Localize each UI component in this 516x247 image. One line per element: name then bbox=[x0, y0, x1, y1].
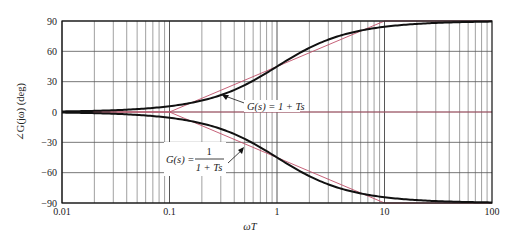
y-tick-label: −60 bbox=[41, 167, 57, 178]
y-tick-label: −30 bbox=[41, 137, 57, 148]
x-tick-labels: 0.010.1110100 bbox=[53, 206, 499, 217]
lag-label-prefix: G(s) = bbox=[166, 154, 194, 166]
x-axis-label: ωT bbox=[243, 221, 257, 232]
x-tick-label: 10 bbox=[380, 206, 390, 217]
y-axis-label: ∠G(jω) (deg) bbox=[15, 83, 27, 141]
phase-plot: 9060300−30−60−90 0.010.1110100 ∠G(jω) (d… bbox=[0, 0, 516, 247]
lag-label-denominator: 1 + Ts bbox=[196, 162, 223, 173]
y-tick-label: 90 bbox=[47, 16, 57, 27]
y-tick-labels: 9060300−30−60−90 bbox=[41, 16, 57, 209]
lag-label-numerator: 1 bbox=[206, 146, 211, 157]
x-tick-label: 0.1 bbox=[163, 206, 176, 217]
x-tick-label: 0.01 bbox=[53, 206, 71, 217]
y-tick-label: 0 bbox=[52, 107, 57, 118]
y-tick-label: 30 bbox=[47, 76, 57, 87]
y-tick-label: 60 bbox=[47, 46, 57, 57]
x-tick-label: 1 bbox=[275, 206, 280, 217]
lead-label: G(s) = 1 + Ts bbox=[247, 101, 305, 113]
x-tick-label: 100 bbox=[485, 206, 500, 217]
lead-arrowhead-icon bbox=[222, 95, 229, 100]
lead-arrow bbox=[225, 96, 247, 104]
